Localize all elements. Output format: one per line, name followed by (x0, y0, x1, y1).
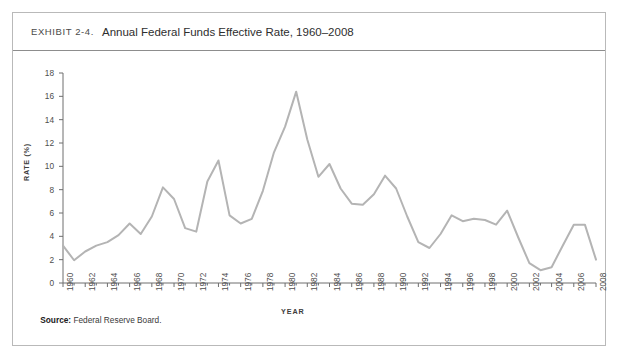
x-tick-label: 1972 (199, 273, 208, 291)
y-axis-title: RATE (%) (22, 143, 31, 181)
x-tick-label: 1968 (155, 273, 164, 291)
y-tick-label: 8 (32, 185, 54, 195)
x-tick-label: 1998 (488, 273, 497, 291)
x-tick-label: 2000 (510, 273, 519, 291)
chart-canvas (13, 51, 607, 347)
x-tick-label: 1986 (355, 273, 364, 291)
x-tick-label: 1992 (421, 273, 430, 291)
page-title: Annual Federal Funds Effective Rate, 196… (102, 26, 354, 38)
x-tick-label: 1984 (333, 273, 342, 291)
x-tick-label: 1982 (310, 273, 319, 291)
x-tick-label: 1962 (88, 273, 97, 291)
x-tick-label: 1964 (110, 273, 119, 291)
y-tick-label: 10 (32, 161, 54, 171)
chart-plot-area: RATE (%) YEAR 024681012141618 1960196219… (13, 51, 607, 347)
x-tick-label: 1970 (177, 273, 186, 291)
x-tick-label: 1990 (399, 273, 408, 291)
y-tick-label: 18 (32, 68, 54, 78)
y-tick-label: 16 (32, 91, 54, 101)
x-tick-label: 1978 (266, 273, 275, 291)
x-tick-label: 1976 (244, 273, 253, 291)
y-tick-label: 6 (32, 208, 54, 218)
y-tick-label: 14 (32, 115, 54, 125)
exhibit-title-bar: Exhibit 2-4. Annual Federal Funds Effect… (13, 13, 605, 51)
y-tick-label: 2 (32, 255, 54, 265)
y-tick-label: 4 (32, 231, 54, 241)
exhibit-number-label: Exhibit 2-4. (31, 26, 94, 37)
x-tick-label: 2008 (599, 273, 608, 291)
x-tick-label: 1960 (66, 273, 75, 291)
source-text: Federal Reserve Board. (73, 315, 161, 325)
x-tick-label: 1980 (288, 273, 297, 291)
x-tick-label: 2004 (555, 273, 564, 291)
exhibit-panel: Exhibit 2-4. Annual Federal Funds Effect… (12, 12, 606, 346)
y-tick-label: 0 (32, 278, 54, 288)
source-prefix: Source: (40, 315, 71, 325)
x-axis-title: YEAR (281, 307, 305, 316)
x-tick-label: 1966 (133, 273, 142, 291)
source-note: Source: Federal Reserve Board. (31, 305, 162, 335)
x-tick-label: 1988 (377, 273, 386, 291)
y-tick-label: 12 (32, 138, 54, 148)
x-tick-label: 1996 (466, 273, 475, 291)
x-tick-label: 1974 (221, 273, 230, 291)
x-tick-label: 2002 (532, 273, 541, 291)
x-tick-label: 1994 (444, 273, 453, 291)
x-tick-label: 2006 (577, 273, 586, 291)
